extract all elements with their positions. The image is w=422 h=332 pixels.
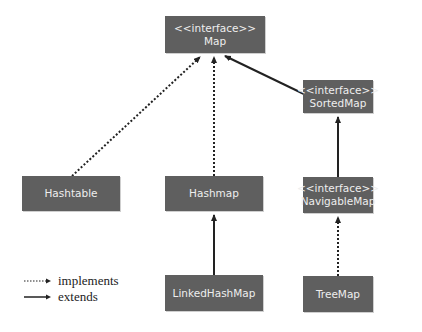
node-stereotype: <<interface>> bbox=[297, 182, 379, 195]
solid-arrow-icon bbox=[24, 293, 52, 301]
legend-implements-label: implements bbox=[58, 273, 119, 289]
node-label: NavigableMap bbox=[301, 195, 376, 208]
node-stereotype: <<interface>> bbox=[174, 22, 256, 35]
node-label: TreeMap bbox=[316, 288, 360, 301]
edge-hashtable-map bbox=[72, 57, 200, 176]
node-sortedmap: <<interface>> SortedMap bbox=[303, 80, 373, 113]
legend-extends: extends bbox=[24, 289, 119, 305]
node-hashmap: Hashmap bbox=[165, 176, 263, 211]
legend-extends-label: extends bbox=[58, 289, 98, 305]
node-label: Map bbox=[204, 35, 226, 48]
node-label: LinkedHashMap bbox=[173, 287, 256, 300]
legend-implements: implements bbox=[24, 273, 119, 289]
dotted-arrow-icon bbox=[24, 277, 52, 285]
node-navigablemap: <<interface>> NavigableMap bbox=[303, 177, 373, 213]
node-label: Hashtable bbox=[44, 187, 97, 200]
node-linkedhashmap: LinkedHashMap bbox=[165, 275, 263, 311]
node-label: Hashmap bbox=[189, 187, 239, 200]
legend: implements extends bbox=[24, 273, 119, 305]
node-treemap: TreeMap bbox=[303, 276, 373, 312]
node-label: SortedMap bbox=[310, 97, 367, 110]
node-map: <<interface>> Map bbox=[165, 16, 265, 53]
node-hashtable: Hashtable bbox=[22, 176, 120, 211]
node-stereotype: <<interface>> bbox=[297, 84, 379, 97]
edge-sortedmap-map bbox=[225, 56, 308, 96]
